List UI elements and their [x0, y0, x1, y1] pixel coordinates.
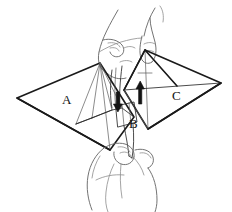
- label-a: A: [62, 92, 72, 107]
- label-b: B: [129, 116, 138, 131]
- fold-arrow-up: [136, 81, 144, 104]
- label-c: C: [172, 88, 181, 103]
- upper-hand: [98, 6, 163, 79]
- origami-diagram: A B C: [0, 0, 232, 212]
- lower-hand: [87, 143, 157, 212]
- origami-figure-container: A B C: [0, 0, 232, 212]
